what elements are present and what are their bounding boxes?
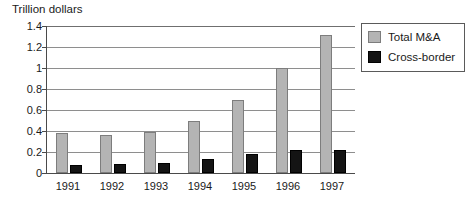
x-tick-label: 1991 xyxy=(46,180,90,193)
bar-total-ma-1996 xyxy=(276,68,288,173)
gridline xyxy=(47,110,355,111)
y-tick-label: 1 xyxy=(2,63,42,74)
gridline xyxy=(47,131,355,132)
y-axis-tick-labels: 00.20.40.60.811.21.4 xyxy=(0,26,42,174)
x-tick-label: 1994 xyxy=(178,180,222,193)
x-tick-label: 1996 xyxy=(266,180,310,193)
x-tick-label: 1997 xyxy=(310,180,354,193)
y-tick-mark xyxy=(42,110,46,111)
legend-swatch-icon xyxy=(368,31,381,43)
gridline xyxy=(47,47,355,48)
x-tick-label: 1992 xyxy=(90,180,134,193)
x-tick-label: 1993 xyxy=(134,180,178,193)
gridline xyxy=(47,152,355,153)
bar-cross-border-1994 xyxy=(202,159,214,173)
y-tick-mark xyxy=(42,47,46,48)
legend-item: Cross-border xyxy=(368,49,458,65)
y-tick-label: 0 xyxy=(2,168,42,179)
bar-total-ma-1994 xyxy=(188,121,200,174)
bar-total-ma-1997 xyxy=(320,35,332,173)
bar-cross-border-1993 xyxy=(158,163,170,174)
y-tick-label: 0.6 xyxy=(2,105,42,116)
y-tick-label: 0.2 xyxy=(2,147,42,158)
plot-area xyxy=(46,26,355,174)
bar-total-ma-1995 xyxy=(232,100,244,174)
x-tick-label: 1995 xyxy=(222,180,266,193)
bar-cross-border-1992 xyxy=(114,164,126,173)
legend-label: Cross-border xyxy=(388,51,455,64)
chart-title: Trillion dollars xyxy=(12,2,83,16)
bar-total-ma-1992 xyxy=(100,135,112,173)
chart-legend: Total M&ACross-border xyxy=(361,23,465,72)
bar-total-ma-1991 xyxy=(56,133,68,173)
y-tick-label: 0.8 xyxy=(2,84,42,95)
y-tick-label: 1.2 xyxy=(2,42,42,53)
legend-item: Total M&A xyxy=(368,29,458,45)
y-tick-label: 0.4 xyxy=(2,126,42,137)
legend-label: Total M&A xyxy=(388,31,440,44)
y-tick-mark xyxy=(42,173,46,174)
gridline xyxy=(47,89,355,90)
x-axis-tick-labels: 1991199219931994199519961997 xyxy=(46,180,355,198)
y-tick-mark xyxy=(42,89,46,90)
legend-swatch-icon xyxy=(368,51,381,63)
gridline xyxy=(47,26,355,27)
y-tick-label: 1.4 xyxy=(2,21,42,32)
y-tick-mark xyxy=(42,131,46,132)
bar-cross-border-1995 xyxy=(246,154,258,173)
bar-cross-border-1991 xyxy=(70,165,82,173)
bar-chart: Trillion dollars 00.20.40.60.811.21.4 19… xyxy=(0,0,472,214)
y-tick-mark xyxy=(42,26,46,27)
gridline xyxy=(47,68,355,69)
y-tick-mark xyxy=(42,152,46,153)
bar-cross-border-1996 xyxy=(290,150,302,173)
bar-total-ma-1993 xyxy=(144,132,156,173)
bar-cross-border-1997 xyxy=(334,150,346,173)
y-tick-mark xyxy=(42,68,46,69)
